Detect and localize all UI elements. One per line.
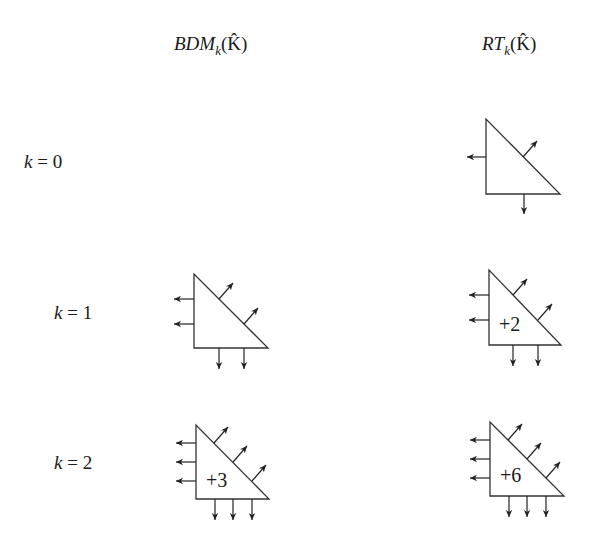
rt-k1-element: +2: [469, 270, 561, 366]
arrow-normal-icon: [219, 283, 233, 299]
bdm-k2-element: +3: [176, 425, 269, 520]
interior-dof-count: +2: [499, 313, 520, 335]
arrow-normal-icon: [538, 304, 552, 320]
interior-dof-count: +6: [500, 464, 521, 486]
rt-k2-element: +6: [470, 422, 564, 517]
bdm-k1-element: [174, 274, 268, 369]
arrow-normal-icon: [214, 427, 228, 443]
element-diagram: +2 +3 +6: [0, 0, 589, 549]
arrow-normal-icon: [508, 424, 522, 440]
rt-k0-element: [467, 119, 560, 214]
arrow-normal-icon: [523, 141, 537, 157]
arrow-normal-icon: [513, 279, 527, 295]
arrow-normal-icon: [527, 443, 541, 459]
arrow-normal-icon: [244, 308, 258, 324]
interior-dof-count: +3: [206, 469, 227, 491]
arrow-normal-icon: [233, 446, 247, 462]
arrow-normal-icon: [546, 462, 560, 478]
arrow-normal-icon: [252, 465, 266, 481]
